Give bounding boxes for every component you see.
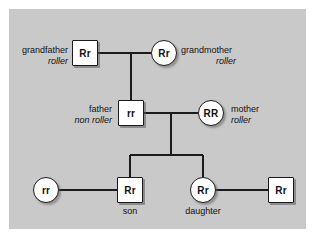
- genotype-grandmother: Rr: [158, 48, 170, 59]
- caption-father: father non roller: [40, 104, 112, 126]
- caption-grandfather-trait: roller: [8, 56, 68, 67]
- genotype-son: Rr: [124, 185, 136, 196]
- caption-son-name: son: [123, 206, 138, 216]
- node-daughter-partner[interactable]: Rr: [268, 177, 294, 203]
- caption-mother-name: mother: [231, 104, 259, 114]
- node-grandfather[interactable]: Rr: [72, 40, 98, 66]
- caption-mother: mother roller: [231, 104, 301, 126]
- genotype-grandfather: Rr: [79, 48, 91, 59]
- node-son[interactable]: Rr: [117, 177, 143, 203]
- node-son-partner[interactable]: rr: [33, 177, 59, 203]
- caption-grandfather: grandfather roller: [8, 45, 68, 67]
- caption-mother-trait: roller: [231, 115, 301, 126]
- genotype-mother: RR: [204, 108, 219, 119]
- genotype-daughter-partner: Rr: [275, 185, 287, 196]
- node-grandmother[interactable]: Rr: [151, 40, 177, 66]
- caption-grandmother-name: grandmother: [181, 45, 232, 55]
- node-daughter[interactable]: Rr: [190, 177, 216, 203]
- caption-father-trait: non roller: [40, 115, 112, 126]
- caption-daughter: daughter: [173, 206, 233, 217]
- genotype-son-partner: rr: [42, 185, 50, 196]
- pedigree-diagram: Rr grandfather roller Rr grandmother rol…: [0, 0, 317, 240]
- caption-grandfather-name: grandfather: [22, 45, 68, 55]
- genotype-daughter: Rr: [197, 185, 209, 196]
- node-father[interactable]: rr: [118, 100, 144, 126]
- node-mother[interactable]: RR: [198, 100, 224, 126]
- caption-daughter-name: daughter: [185, 206, 221, 216]
- caption-grandmother: grandmother roller: [181, 45, 271, 67]
- genotype-father: rr: [127, 108, 135, 119]
- caption-son: son: [100, 206, 160, 217]
- caption-grandmother-trait: roller: [181, 56, 271, 67]
- caption-father-name: father: [89, 104, 112, 114]
